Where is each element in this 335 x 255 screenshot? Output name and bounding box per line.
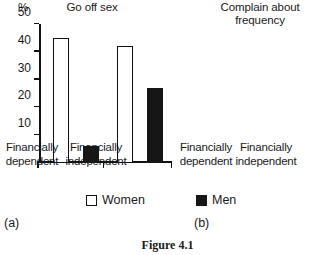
category-label-2: Financiallyindependent — [60, 141, 132, 168]
legend-label-men: Men — [212, 193, 236, 207]
x-axis-category-labels-a: FinanciallydependentFinanciallyindepende… — [0, 141, 178, 171]
legend-item-men: Men — [196, 193, 236, 207]
category-label-1: Financiallydependent — [0, 141, 68, 168]
chart-title-a: Go off sex — [22, 1, 162, 14]
legend-item-women: Women — [86, 193, 145, 207]
y-tick-label-10: 10 — [18, 117, 31, 129]
category-label-1-line1: Financially — [0, 141, 68, 155]
y-tick-50 — [34, 23, 39, 24]
chart-title-b-line1: Complain about — [186, 1, 334, 14]
y-tick-label-30: 30 — [18, 62, 31, 74]
chart-title-b: Complain about frequency — [186, 1, 334, 27]
x-axis-category-labels-b: FinanciallydependentFinanciallyindepende… — [178, 141, 335, 171]
chart-panel-b: Complain about frequency Financiallydepe… — [178, 0, 335, 215]
legend-label-women: Women — [102, 193, 145, 207]
y-tick-10 — [34, 134, 39, 135]
y-tick-label-40: 40 — [18, 34, 31, 46]
category-label-2-line1: Financially — [230, 141, 302, 155]
chart-title-b-line2: frequency — [186, 14, 334, 27]
filled-square-icon — [196, 195, 207, 206]
chart-panel-a: % Go off sex 1020304050 Financiallydepen… — [0, 0, 178, 215]
category-label-2: Financiallyindependent — [230, 141, 302, 168]
y-tick-30 — [34, 78, 39, 79]
category-label-2-line2: independent — [60, 155, 132, 169]
y-tick-20 — [34, 106, 39, 107]
panel-letter-a: (a) — [4, 216, 19, 230]
category-label-2-line2: independent — [230, 155, 302, 169]
y-tick-label-50: 50 — [18, 6, 31, 18]
legend: Women Men — [0, 193, 335, 213]
category-label-2-line1: Financially — [60, 141, 132, 155]
panel-letter-b: (b) — [194, 216, 209, 230]
y-tick-label-20: 20 — [18, 89, 31, 101]
category-label-1-line2: dependent — [0, 155, 68, 169]
figure-4-1: % Go off sex 1020304050 Financiallydepen… — [0, 0, 335, 255]
open-square-icon — [86, 195, 97, 206]
y-tick-40 — [34, 50, 39, 51]
figure-caption: Figure 4.1 — [0, 238, 335, 252]
